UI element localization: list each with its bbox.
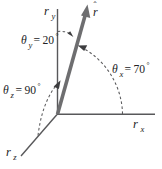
- theta-y-value: 20: [43, 34, 55, 47]
- theta-x-equals: =: [125, 63, 132, 76]
- theta-z-degree: °: [38, 82, 41, 91]
- axis-label-rx-subscript: x: [140, 124, 145, 134]
- axis-label-ry-subscript: y: [51, 11, 56, 21]
- theta-x-subscript: x: [118, 69, 123, 79]
- theta-y-subscript: y: [27, 40, 32, 50]
- axis-label-ry-base: r: [44, 4, 49, 18]
- theta-x-value: 70: [134, 63, 146, 76]
- angle-label-theta-y: θ y = 20 °: [21, 32, 59, 50]
- r-hat-label: r ˆ: [93, 0, 98, 19]
- z-axis-line: [21, 115, 57, 157]
- theta-x-arc: [81, 47, 123, 114]
- diagram-canvas: r y r x r z r ˆ θ y = 20 ° θ x: [0, 0, 162, 169]
- theta-y-arc-arrowhead: [68, 31, 74, 37]
- theta-z-symbol: θ: [3, 84, 9, 97]
- theta-z-equals: =: [16, 84, 23, 97]
- axis-label-rz-base: r: [6, 145, 11, 159]
- theta-x-symbol: θ: [112, 63, 118, 76]
- theta-y-symbol: θ: [21, 34, 27, 47]
- r-hat-label-hat: ˆ: [94, 0, 97, 10]
- theta-z-arc: [38, 83, 58, 136]
- axis-label-rx-base: r: [133, 117, 138, 131]
- theta-y-arc-group: [58, 31, 74, 37]
- axis-label-rz: r z: [6, 145, 17, 162]
- theta-x-degree: °: [147, 61, 150, 70]
- theta-z-value: 90: [25, 84, 37, 97]
- vector-angle-diagram: r y r x r z r ˆ θ y = 20 ° θ x: [0, 0, 162, 169]
- angle-label-theta-x: θ x = 70 °: [112, 61, 150, 79]
- theta-z-subscript: z: [9, 90, 14, 100]
- angle-label-theta-z: θ z = 90 °: [3, 82, 41, 100]
- theta-y-degree: °: [56, 32, 59, 41]
- axis-label-rz-subscript: z: [12, 152, 17, 162]
- axis-label-rx: r x: [133, 117, 145, 134]
- r-hat-vector-shaft: [58, 14, 86, 114]
- theta-y-equals: =: [34, 34, 41, 47]
- axis-label-ry: r y: [44, 4, 56, 21]
- theta-x-arc-group: [78, 45, 123, 114]
- r-hat-vector-group: [58, 5, 91, 115]
- r-hat-arrowhead: [81, 5, 90, 18]
- axes-group: [21, 9, 155, 156]
